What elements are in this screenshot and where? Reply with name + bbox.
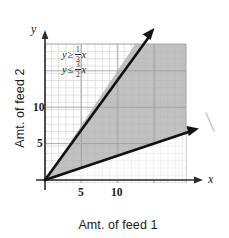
inequality-graph-figure: Amt. of feed 2 Amt. of feed 1 y x 10 5 5… xyxy=(0,0,229,238)
inequality-second-denominator: 2 xyxy=(76,71,80,79)
inequality-first: y ≥ 1 3 x xyxy=(62,47,86,62)
y-tick-label-10: 10 xyxy=(33,101,45,113)
y-axis-title: Amt. of feed 2 xyxy=(13,50,27,166)
inequality-second: y ≤ 3 2 x xyxy=(62,62,86,77)
inequality-second-term: x xyxy=(81,62,86,77)
inequality-second-relation: ≤ xyxy=(68,62,74,77)
inequality-first-relation: ≥ xyxy=(68,47,74,62)
x-axis-title: Amt. of feed 1 xyxy=(52,218,184,232)
x-tick-label-10: 10 xyxy=(111,186,123,198)
x-axis-variable-label: x xyxy=(208,172,213,187)
inequality-first-numerator: 1 xyxy=(76,46,80,54)
y-axis-variable-label: y xyxy=(31,22,36,37)
x-tick-label-5: 5 xyxy=(78,186,84,198)
inequality-first-variable: y xyxy=(62,47,67,62)
stray-pencil-mark xyxy=(206,113,214,131)
inequality-second-variable: y xyxy=(62,62,67,77)
inequality-annotations: y ≥ 1 3 x y ≤ 3 2 x xyxy=(62,47,86,77)
inequality-first-term: x xyxy=(81,47,86,62)
y-tick-label-5: 5 xyxy=(37,137,43,149)
inequality-second-numerator: 3 xyxy=(76,61,80,69)
